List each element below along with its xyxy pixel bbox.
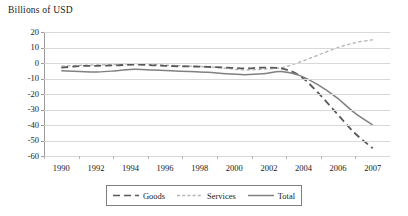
legend-item-services[interactable]: Services xyxy=(177,191,236,201)
y-axis-label: -20 xyxy=(10,89,39,99)
x-axis-tick xyxy=(113,156,114,159)
grid-line xyxy=(44,141,390,142)
y-axis-label: -60 xyxy=(10,151,39,161)
x-axis-label: 1990 xyxy=(53,163,70,173)
legend-label-total: Total xyxy=(278,191,295,201)
x-axis-label: 1994 xyxy=(122,163,139,173)
series-line-goods xyxy=(61,65,372,149)
x-axis-label: 2000 xyxy=(226,163,243,173)
chart-legend: Goods Services Total xyxy=(106,185,302,206)
grid-line xyxy=(44,125,390,126)
total-line-swatch xyxy=(248,192,274,199)
y-axis-label: -50 xyxy=(10,135,39,145)
x-axis-tick xyxy=(148,156,149,159)
y-axis-label: 10 xyxy=(10,42,39,52)
legend-label-goods: Goods xyxy=(143,191,165,201)
chart-container: Billions of USD 20100-10-20-30-40-50-60 … xyxy=(0,0,408,216)
x-axis-label: 2007 xyxy=(364,163,381,173)
grid-line xyxy=(44,79,390,80)
x-axis-label: 2002 xyxy=(260,163,277,173)
x-axis-label: 1992 xyxy=(87,163,104,173)
x-axis-tick xyxy=(355,156,356,159)
y-axis-label: -10 xyxy=(10,73,39,83)
y-axis-label: 20 xyxy=(10,27,39,37)
x-axis-tick xyxy=(182,156,183,159)
x-axis-tick xyxy=(286,156,287,159)
grid-line xyxy=(44,48,390,49)
x-axis-tick xyxy=(252,156,253,159)
grid-line xyxy=(44,110,390,111)
y-axis-label: -40 xyxy=(10,120,39,130)
legend-item-total[interactable]: Total xyxy=(248,191,295,201)
legend-label-services: Services xyxy=(207,191,236,201)
x-axis-label: 1996 xyxy=(157,163,174,173)
x-axis-tick xyxy=(44,156,45,159)
x-axis-label: 2004 xyxy=(295,163,312,173)
x-axis-label: 1998 xyxy=(191,163,208,173)
x-axis-tick xyxy=(321,156,322,159)
y-axis-label: -30 xyxy=(10,104,39,114)
goods-line-swatch xyxy=(113,192,139,199)
x-axis-tick xyxy=(79,156,80,159)
x-axis-tick xyxy=(217,156,218,159)
grid-line xyxy=(44,32,390,33)
grid-line xyxy=(44,63,390,64)
services-line-swatch xyxy=(177,192,203,199)
x-axis-label: 2006 xyxy=(330,163,347,173)
y-axis-label: 0 xyxy=(10,58,39,68)
legend-item-goods[interactable]: Goods xyxy=(113,191,165,201)
plot-area xyxy=(44,32,390,156)
grid-line xyxy=(44,94,390,95)
